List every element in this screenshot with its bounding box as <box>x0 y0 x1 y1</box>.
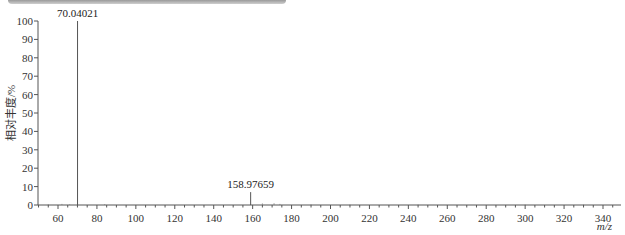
x-tick-label: 60 <box>53 212 65 224</box>
y-tick-label: 100 <box>17 15 34 27</box>
y-tick-label: 80 <box>22 52 34 64</box>
x-tick-label: 160 <box>244 212 261 224</box>
x-tick-label: 240 <box>400 212 417 224</box>
y-tick-label: 10 <box>22 181 34 193</box>
x-axis-title: m/z <box>597 220 613 232</box>
y-tick-label: 40 <box>22 125 34 137</box>
y-axis: 0102030405060708090100 <box>17 15 39 211</box>
x-tick-label: 100 <box>128 212 145 224</box>
y-tick-label: 60 <box>22 89 34 101</box>
x-tick-label: 140 <box>205 212 222 224</box>
x-tick-label: 180 <box>283 212 300 224</box>
x-tick-label: 200 <box>322 212 339 224</box>
x-tick-label: 280 <box>478 212 495 224</box>
peak-label: 70.04021 <box>57 7 98 19</box>
peak-label: 158.97659 <box>227 178 274 190</box>
y-tick-label: 30 <box>22 144 34 156</box>
peaks: 70.04021158.97659 <box>48 7 583 205</box>
y-tick-label: 0 <box>28 199 34 211</box>
x-axis: 6080100120140160180200220240260280300320… <box>38 205 621 224</box>
y-tick-label: 70 <box>22 70 34 82</box>
x-tick-label: 320 <box>556 212 573 224</box>
y-tick-label: 20 <box>22 162 34 174</box>
mass-spectrum-chart: 0102030405060708090100 60801001201401601… <box>0 0 625 235</box>
x-tick-label: 300 <box>517 212 534 224</box>
x-tick-label: 120 <box>167 212 184 224</box>
y-tick-label: 50 <box>22 107 34 119</box>
y-axis-title: 相对丰度/% <box>4 85 17 141</box>
y-tick-label: 90 <box>22 33 34 45</box>
x-tick-label: 80 <box>91 212 103 224</box>
x-tick-label: 260 <box>439 212 456 224</box>
x-tick-label: 220 <box>361 212 378 224</box>
